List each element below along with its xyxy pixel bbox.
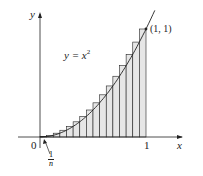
curve-label: y = x2 bbox=[64, 49, 90, 61]
origin-label: 0 bbox=[31, 140, 37, 151]
x-axis-label: x bbox=[177, 140, 182, 151]
rectangle bbox=[60, 130, 67, 137]
rectangle bbox=[133, 42, 140, 137]
curve-label-exponent: 2 bbox=[87, 48, 91, 56]
width-label: 1 n bbox=[48, 151, 54, 168]
rectangle bbox=[139, 29, 146, 137]
point-marker-icon bbox=[145, 28, 148, 31]
rectangle bbox=[113, 76, 120, 137]
curve-label-text: y = x bbox=[64, 49, 87, 61]
y-axis-arrow-icon bbox=[38, 12, 42, 18]
rectangle bbox=[93, 103, 100, 137]
point-label: (1, 1) bbox=[150, 24, 172, 34]
x-tick-label: 1 bbox=[144, 140, 150, 151]
width-label-denominator: n bbox=[48, 160, 54, 168]
pointer-arrowhead-icon bbox=[43, 139, 47, 144]
rectangle bbox=[120, 66, 127, 137]
rectangle bbox=[86, 110, 93, 137]
rectangle bbox=[126, 54, 133, 137]
y-axis-label: y bbox=[30, 9, 35, 20]
rectangles bbox=[40, 29, 146, 137]
